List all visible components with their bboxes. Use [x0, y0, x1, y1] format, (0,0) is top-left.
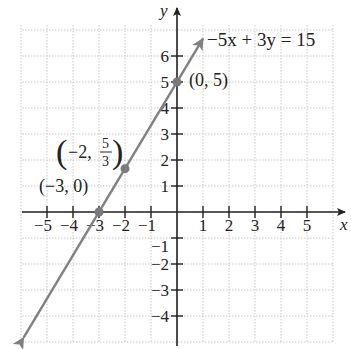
point-label-0-5: (0, 5)	[189, 70, 228, 91]
y-tick-label: 1	[161, 177, 170, 196]
data-point	[173, 78, 182, 87]
x-tick-label: 3	[251, 216, 260, 235]
x-tick-label: −2	[112, 216, 130, 235]
x-tick-label: 2	[225, 216, 234, 235]
x-tick-label: 1	[199, 216, 208, 235]
y-tick-label: −4	[151, 307, 170, 326]
x-tick-label: −4	[60, 216, 79, 235]
y-axis-label: y	[158, 1, 168, 20]
y-tick-label: −1	[151, 237, 169, 256]
point-label-neg2-frac: ( −2, 5 3 )	[56, 133, 123, 171]
x-tick-label: 4	[277, 216, 286, 235]
graph: −5−4−3−2−112345−4−3−2−1123456 x y −5x + …	[0, 0, 351, 349]
x-tick-label: 5	[303, 216, 312, 235]
x-tick-label: −1	[138, 216, 156, 235]
x-tick-label: −5	[34, 216, 52, 235]
fraction-denominator: 3	[102, 154, 109, 169]
point-label-neg2-prefix: −2,	[68, 142, 92, 162]
y-tick-label: −3	[151, 281, 169, 300]
y-tick-label: 6	[161, 47, 170, 66]
data-point	[95, 208, 104, 217]
equation-label: −5x + 3y = 15	[207, 29, 315, 50]
y-tick-label: 2	[161, 151, 170, 170]
point-label-neg3-0: (−3, 0)	[39, 176, 88, 197]
right-paren: )	[112, 133, 123, 171]
y-tick-label: 5	[161, 73, 170, 92]
y-tick-label: 3	[161, 125, 170, 144]
x-axis-label: x	[339, 215, 348, 234]
y-tick-label: −2	[151, 255, 169, 274]
fraction-numerator: 5	[102, 136, 109, 151]
left-paren: (	[56, 133, 67, 171]
